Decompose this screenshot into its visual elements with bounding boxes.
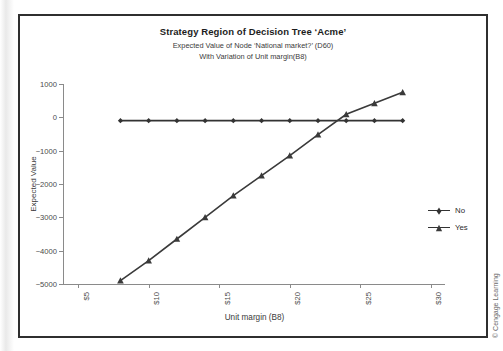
chart-subtitle-2: With Variation of Unit margin(B8): [20, 52, 486, 63]
legend-marker-triangle-icon: [428, 223, 450, 233]
data-point-marker: [146, 118, 151, 123]
data-point-marker: [118, 118, 123, 123]
x-tick-mark: [431, 284, 432, 288]
data-point-marker: [287, 118, 292, 123]
x-tick-label: $10: [152, 292, 161, 305]
data-point-marker: [399, 89, 406, 95]
y-tick-label: 0: [53, 113, 57, 122]
y-tick-label: −3000: [36, 213, 57, 222]
x-tick-mark: [149, 284, 150, 288]
x-axis-label: Unit margin (B8): [64, 313, 445, 322]
chart-figure-frame: Strategy Region of Decision Tree ‘Acme’ …: [18, 14, 488, 338]
x-tick-mark: [78, 284, 79, 288]
chart-subtitle-1: Expected Value of Node ‘National market?…: [20, 41, 486, 52]
y-axis-spine: [63, 84, 64, 284]
y-tick-mark: [59, 184, 63, 185]
legend-item-yes[interactable]: Yes: [428, 219, 494, 236]
data-point-marker: [372, 118, 377, 123]
y-tick-label: −5000: [36, 280, 57, 289]
legend-label-no: No: [455, 206, 465, 215]
y-tick-mark: [59, 217, 63, 218]
y-tick-label: −4000: [36, 246, 57, 255]
series-plot: [64, 84, 445, 284]
data-point-marker: [203, 118, 208, 123]
data-point-marker: [400, 118, 405, 123]
x-tick-mark: [290, 284, 291, 288]
title-block: Strategy Region of Decision Tree ‘Acme’ …: [20, 26, 486, 62]
y-tick-label: −2000: [36, 180, 57, 189]
y-tick-label: 1000: [40, 80, 57, 89]
page-gutter-shading: [0, 0, 14, 351]
chart-title: Strategy Region of Decision Tree ‘Acme’: [20, 26, 486, 38]
legend-marker-diamond-icon: [428, 206, 450, 216]
data-point-marker: [259, 118, 264, 123]
y-tick-mark: [59, 117, 63, 118]
copyright-notice: © Cengage Learning: [492, 273, 499, 338]
y-tick-mark: [59, 284, 63, 285]
x-tick-label: $15: [223, 292, 232, 305]
x-tick-mark: [360, 284, 361, 288]
legend-item-no[interactable]: No: [428, 202, 494, 219]
y-tick-mark: [59, 84, 63, 85]
plot-area: 10000−1000−2000−3000−4000−5000 $5$10$15$…: [64, 84, 445, 284]
y-tick-label: −1000: [36, 146, 57, 155]
x-tick-mark: [219, 284, 220, 288]
x-tick-label: $5: [82, 292, 91, 300]
x-tick-label: $25: [364, 292, 373, 305]
x-tick-label: $30: [434, 292, 443, 305]
data-point-marker: [315, 118, 320, 123]
y-tick-mark: [59, 151, 63, 152]
legend-label-yes: Yes: [455, 223, 468, 232]
x-axis-spine: [63, 284, 445, 285]
chart-legend: No Yes: [428, 202, 494, 236]
x-tick-label: $20: [293, 292, 302, 305]
data-point-marker: [344, 118, 349, 123]
y-tick-mark: [59, 251, 63, 252]
data-point-marker: [231, 118, 236, 123]
data-point-marker: [174, 118, 179, 123]
